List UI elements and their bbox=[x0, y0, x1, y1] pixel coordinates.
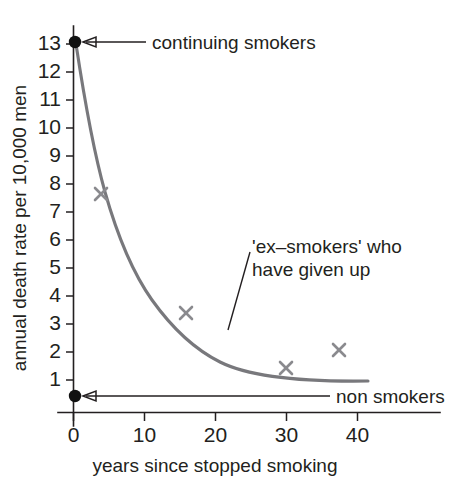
y-tick-label: 10 bbox=[38, 115, 61, 138]
y-tick-label: 9 bbox=[49, 143, 61, 166]
ex-smokers-leader bbox=[228, 252, 250, 330]
x-tick-label: 20 bbox=[204, 423, 227, 446]
chart-figure: 13 12 11 10 9 8 7 6 5 4 3 2 1 0 10 20 bbox=[0, 0, 458, 494]
non-smokers-label: non smokers bbox=[336, 386, 445, 407]
decay-curve bbox=[76, 44, 368, 381]
y-tick-label: 8 bbox=[49, 171, 61, 194]
y-tick-label: 7 bbox=[49, 199, 61, 222]
continuing-smokers-label: continuing smokers bbox=[152, 32, 316, 53]
x-tick-label: 40 bbox=[346, 423, 369, 446]
y-tick-label: 2 bbox=[49, 339, 61, 362]
non-smokers-leader bbox=[83, 391, 330, 401]
y-tick-label: 12 bbox=[38, 59, 61, 82]
data-point-markers bbox=[95, 188, 345, 374]
x-tick-marks bbox=[74, 412, 358, 421]
x-tick-label: 30 bbox=[275, 423, 298, 446]
continuing-smokers-dot bbox=[69, 36, 81, 48]
data-point-marker bbox=[333, 344, 345, 356]
y-tick-label: 5 bbox=[49, 255, 61, 278]
y-tick-label: 6 bbox=[49, 227, 61, 250]
continuing-smokers-leader bbox=[83, 37, 146, 47]
data-point-marker bbox=[280, 362, 292, 374]
x-tick-label: 0 bbox=[68, 423, 80, 446]
y-axis-title: annual death rate per 10,000 men bbox=[9, 85, 30, 371]
ex-smokers-label-line2: have given up bbox=[252, 259, 370, 280]
x-axis-title: years since stopped smoking bbox=[92, 455, 337, 476]
y-tick-label: 11 bbox=[39, 87, 61, 110]
y-tick-label: 13 bbox=[38, 31, 61, 54]
y-tick-label: 4 bbox=[49, 283, 61, 306]
data-point-marker bbox=[180, 307, 192, 319]
y-tick-label: 1 bbox=[49, 367, 61, 390]
y-tick-label: 3 bbox=[49, 311, 61, 334]
y-tick-labels: 13 12 11 10 9 8 7 6 5 4 3 2 1 bbox=[38, 31, 62, 390]
ex-smokers-label-line1: 'ex–smokers' who bbox=[252, 236, 402, 257]
death-rate-decay-chart: 13 12 11 10 9 8 7 6 5 4 3 2 1 0 10 20 bbox=[0, 0, 458, 494]
x-tick-label: 10 bbox=[133, 423, 156, 446]
non-smokers-dot bbox=[69, 390, 81, 402]
x-tick-labels: 0 10 20 30 40 bbox=[68, 423, 370, 446]
